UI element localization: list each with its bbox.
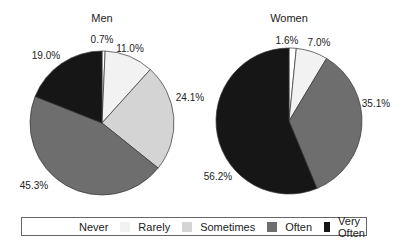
pie-men xyxy=(30,51,174,195)
label-women-very-often: 56.2% xyxy=(204,171,232,182)
pie-women xyxy=(216,48,362,194)
label-women-often: 35.1% xyxy=(362,98,390,109)
legend-label-sometimes: Sometimes xyxy=(200,221,255,233)
legend-item-very-often: Very Often xyxy=(324,215,369,239)
legend-swatch-very-often xyxy=(324,222,330,232)
label-men-never: 0.7% xyxy=(91,34,114,45)
chart-title-women: Women xyxy=(270,12,308,24)
legend: Never Rarely Sometimes Often Very Often xyxy=(21,217,367,236)
label-men-often: 45.3% xyxy=(20,180,48,191)
legend-item-sometimes: Sometimes xyxy=(182,221,255,233)
legend-item-often: Often xyxy=(267,221,312,233)
label-men-rarely: 11.0% xyxy=(116,43,144,54)
legend-label-never: Never xyxy=(79,221,108,233)
legend-label-rarely: Rarely xyxy=(138,221,170,233)
legend-item-rarely: Rarely xyxy=(120,221,170,233)
label-women-never: 1.6% xyxy=(276,35,299,46)
label-men-very-often: 19.0% xyxy=(32,50,60,61)
legend-swatch-never xyxy=(61,222,71,232)
legend-swatch-often xyxy=(267,222,277,232)
label-men-sometimes: 24.1% xyxy=(176,92,204,103)
legend-label-often: Often xyxy=(285,221,312,233)
legend-swatch-rarely xyxy=(120,222,130,232)
chart-title-men: Men xyxy=(91,12,112,24)
legend-item-never: Never xyxy=(61,221,108,233)
legend-swatch-sometimes xyxy=(182,222,192,232)
label-women-rarely: 7.0% xyxy=(308,37,331,48)
legend-label-very-often: Very Often xyxy=(338,215,369,239)
